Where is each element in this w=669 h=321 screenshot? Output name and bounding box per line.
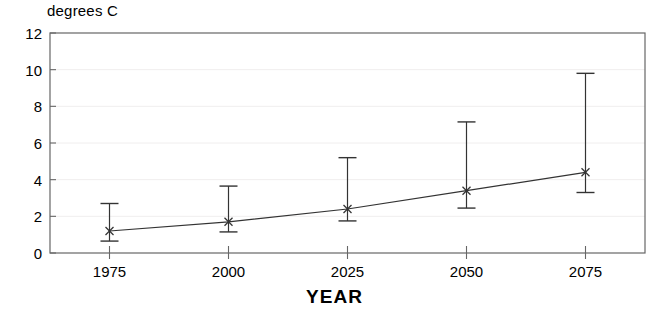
plot-area	[0, 0, 669, 321]
chart-container: degrees C 024681012 19752000202520502075…	[0, 0, 669, 321]
data-point-group	[577, 73, 595, 192]
y-tick-marks	[50, 33, 56, 253]
data-point-group	[101, 204, 119, 242]
data-point-group	[339, 158, 357, 221]
data-point-group	[458, 122, 476, 208]
data-point-group	[220, 186, 238, 232]
x-axis-title: YEAR	[0, 286, 669, 308]
